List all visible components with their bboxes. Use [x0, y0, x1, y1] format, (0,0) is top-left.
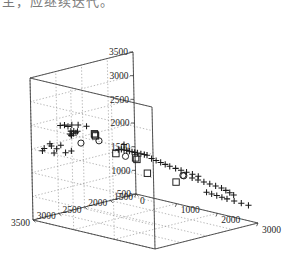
ticklabel-y: 2000 — [88, 198, 107, 208]
points-layer — [39, 122, 251, 209]
data-point-plus — [61, 122, 67, 128]
data-point-plus — [173, 165, 179, 171]
ticklabel-x: 0 — [140, 196, 145, 206]
data-point-plus — [207, 181, 213, 187]
data-point-square — [144, 170, 150, 176]
page-caption: 主，应继续迭代。 — [0, 0, 302, 13]
data-point-plus — [213, 183, 219, 189]
ticklabel-y: 3500 — [11, 218, 30, 228]
tick-labels-layer: 5001000150020002500300035001500200025003… — [11, 47, 281, 234]
data-point-plus — [189, 175, 195, 181]
ticklabel-x: 3000 — [262, 225, 281, 235]
ticklabel-z: 1000 — [112, 166, 131, 176]
grid-floor-y — [59, 214, 181, 243]
data-point-plus — [68, 148, 74, 154]
edge-floor-back — [33, 220, 155, 249]
ticklabel-y: 3000 — [37, 211, 56, 221]
edge-right-back — [152, 107, 155, 249]
data-point-plus — [238, 200, 244, 206]
data-point-plus — [58, 142, 64, 148]
edge-floor-right — [155, 223, 258, 249]
scatter3d-canvas: 5001000150020002500300035001500200025003… — [0, 13, 302, 270]
data-point-plus — [201, 179, 207, 185]
ticklabel-z: 2500 — [110, 95, 129, 105]
ticklabel-x: 1000 — [181, 205, 200, 215]
ticklabel-y: 2500 — [63, 205, 82, 215]
ticklabel-z: 1500 — [111, 142, 130, 152]
caption-text: 主，应继续迭代。 — [2, 0, 114, 10]
data-point-plus — [69, 122, 75, 128]
ticklabel-z: 3500 — [109, 47, 128, 57]
data-point-plus — [231, 198, 237, 204]
ticklabel-z: 3000 — [110, 71, 129, 81]
data-point-circle — [122, 153, 128, 159]
data-point-plus — [245, 202, 251, 208]
ticklabel-y: 1500 — [114, 192, 133, 202]
data-point-plus — [75, 122, 81, 128]
ticklabel-z: 2000 — [111, 118, 130, 128]
data-point-plus — [65, 123, 71, 129]
data-point-plus — [83, 123, 89, 129]
scatter3d-figure: 5001000150020002500300035001500200025003… — [0, 13, 302, 270]
data-point-plus — [195, 177, 201, 183]
ticklabel-x: 2000 — [221, 215, 240, 225]
data-point-square — [173, 179, 179, 185]
data-point-plus — [62, 150, 68, 156]
